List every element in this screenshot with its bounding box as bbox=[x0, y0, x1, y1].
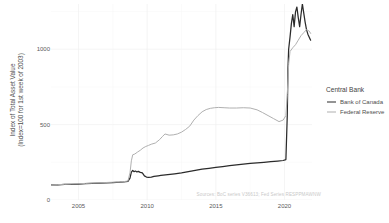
y-tick-label: 1000 bbox=[24, 46, 50, 52]
chart-figure: Index of Total Asset Value (Index=100 fo… bbox=[0, 0, 389, 223]
legend-entries: Bank of CanadaFederal Reserve bbox=[326, 97, 388, 116]
x-tick-label: 2020 bbox=[278, 203, 291, 209]
x-axis-ticks: 2005201020152020 bbox=[0, 203, 389, 215]
x-tick-label: 2015 bbox=[209, 203, 222, 209]
gridlines bbox=[51, 4, 312, 200]
y-axis-ticks: 05001000 bbox=[22, 0, 50, 200]
y-axis-title-line1: Index of Total Asset Value bbox=[9, 53, 17, 147]
legend: Central Bank Bank of CanadaFederal Reser… bbox=[326, 86, 388, 117]
legend-swatch-icon bbox=[326, 107, 337, 116]
legend-entry[interactable]: Federal Reserve bbox=[326, 107, 388, 116]
x-tick-label: 2005 bbox=[72, 203, 85, 209]
legend-label: Bank of Canada bbox=[340, 99, 383, 105]
plot-panel bbox=[51, 4, 312, 200]
legend-label: Federal Reserve bbox=[340, 109, 384, 115]
series-line-bank-of-canada bbox=[51, 4, 311, 185]
legend-swatch-icon bbox=[326, 97, 337, 106]
source-caption: Sources: BoC series V36613; Fed Series R… bbox=[197, 192, 321, 197]
x-tick-label: 2010 bbox=[140, 203, 153, 209]
plot-svg bbox=[51, 4, 312, 200]
y-tick-label: 500 bbox=[24, 122, 50, 128]
legend-title: Central Bank bbox=[326, 86, 388, 93]
legend-entry[interactable]: Bank of Canada bbox=[326, 97, 388, 106]
series-lines bbox=[51, 4, 311, 185]
